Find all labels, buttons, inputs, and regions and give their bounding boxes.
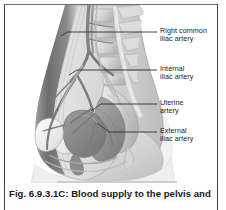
label-line-2: iliac artery bbox=[160, 135, 193, 143]
page-left-gutter bbox=[0, 0, 4, 210]
label-uterine-artery: Uterine artery bbox=[160, 99, 184, 116]
figure-caption-area: Fig. 6.9.3.1C: Blood supply to the pelvi… bbox=[5, 183, 217, 210]
label-line-2: iliac artery bbox=[160, 35, 207, 43]
label-right-common-iliac-artery: Right common iliac artery bbox=[160, 27, 207, 44]
figure-plate: Right common iliac artery Internal iliac… bbox=[5, 5, 217, 183]
label-external-iliac-artery: External iliac artery bbox=[160, 127, 193, 144]
label-line-2: artery bbox=[160, 107, 184, 115]
label-line-2: iliac artery bbox=[160, 73, 193, 81]
figure-caption: Fig. 6.9.3.1C: Blood supply to the pelvi… bbox=[9, 188, 215, 200]
page-right-gutter bbox=[219, 0, 226, 210]
figure-screenshot: Right common iliac artery Internal iliac… bbox=[0, 0, 226, 210]
page-top-gutter bbox=[0, 0, 226, 4]
label-internal-iliac-artery: Internal iliac artery bbox=[160, 65, 193, 82]
